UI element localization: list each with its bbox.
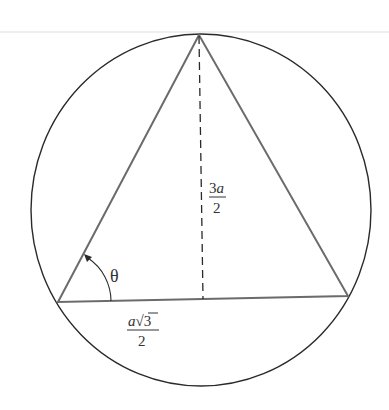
half-base-denominator: 2 [138, 333, 146, 349]
altitude-numerator-coef: 3 [209, 180, 217, 196]
altitude-numerator-var: a [217, 180, 225, 196]
half-base-label: a√3 2 [127, 313, 159, 349]
diagram-canvas: θ 3a 2 a√3 2 [0, 0, 389, 410]
half-base-numerator-var: a [128, 313, 136, 329]
arrowhead-icon [84, 254, 92, 262]
half-base-radicand: 3 [144, 313, 152, 329]
svg-text:a√3: a√3 [128, 313, 151, 329]
altitude-dashed-line [199, 36, 203, 299]
altitude-denominator: 2 [213, 200, 221, 216]
svg-text:3a: 3a [209, 180, 224, 196]
altitude-label: 3a 2 [209, 180, 226, 216]
angle-label-theta: θ [110, 266, 119, 286]
angle-theta-arc [88, 258, 111, 301]
